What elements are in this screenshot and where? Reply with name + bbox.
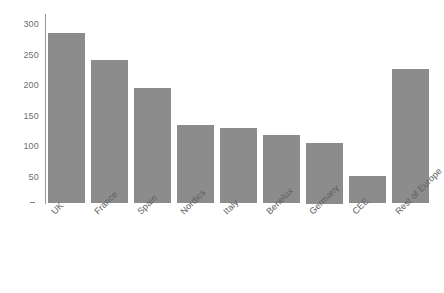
y-axis-zero-tick — [30, 202, 35, 203]
y-axis-line — [45, 14, 46, 204]
bar-france — [91, 60, 128, 203]
bar-italy — [220, 128, 257, 203]
y-tick-label: 200 — [5, 81, 39, 90]
y-tick-label: 100 — [5, 142, 39, 151]
y-tick-label: 300 — [5, 20, 39, 29]
bar-uk — [48, 33, 85, 204]
y-tick-label: 50 — [5, 173, 39, 182]
y-tick-label: 250 — [5, 51, 39, 60]
y-tick-label: 150 — [5, 112, 39, 121]
bar-spain — [134, 88, 171, 204]
